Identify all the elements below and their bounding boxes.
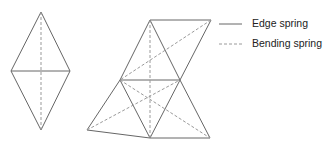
legend-bending-spring: Bending spring [252, 37, 322, 49]
single-pair-diagram [11, 12, 70, 130]
mesh-diagram [87, 20, 211, 138]
legend-edge-spring: Edge spring [252, 17, 308, 29]
bending-springs [87, 20, 211, 138]
